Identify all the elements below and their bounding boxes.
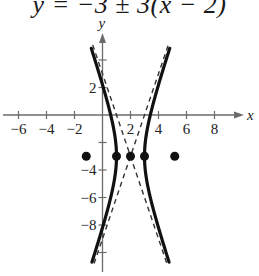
y-axis-arrow-icon: [99, 33, 106, 43]
x-tick-label: 6: [183, 121, 191, 137]
vertex-point: [112, 152, 121, 161]
x-axis-label: x: [246, 107, 254, 123]
x-tick-label: −6: [11, 121, 27, 137]
x-tick-label: −4: [39, 121, 55, 137]
vertex-point: [140, 152, 149, 161]
focus-point: [170, 152, 179, 161]
plot-area: xy−6−4−224682−4−6−8: [0, 0, 259, 276]
x-tick-label: 2: [127, 121, 135, 137]
y-tick-label: −6: [81, 190, 97, 206]
x-tick-label: 8: [211, 121, 219, 137]
y-tick-label: 2: [89, 80, 97, 96]
y-axis-label: y: [97, 15, 106, 31]
points: [82, 152, 179, 161]
axes: xy−6−4−224682−4−6−8: [3, 15, 254, 272]
y-tick-label: −8: [81, 217, 97, 233]
x-tick-label: 4: [155, 121, 163, 137]
y-tick-label: −4: [81, 162, 97, 178]
x-tick-label: −2: [67, 121, 83, 137]
center-point: [126, 152, 135, 161]
focus-point: [82, 152, 91, 161]
x-axis-arrow-icon: [234, 112, 244, 119]
